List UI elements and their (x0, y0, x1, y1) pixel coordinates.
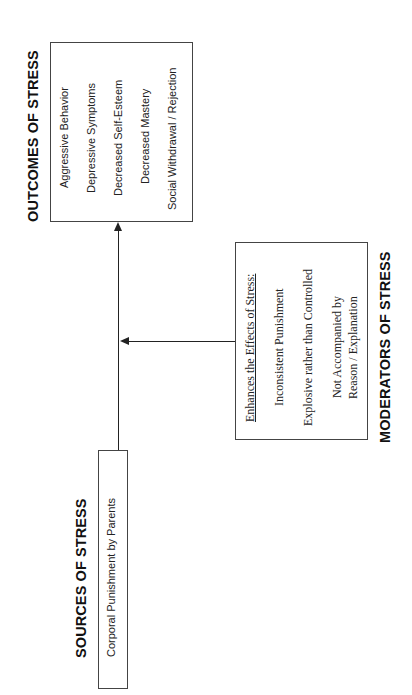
moderator-connector-line (128, 341, 235, 342)
moderator-item: Reason / Explanation (346, 296, 361, 399)
moderator-item: Inconsistent Punishment (272, 288, 287, 406)
outcome-item: Decreased Self-Esteem (112, 80, 124, 196)
sources-title: SOURCES OF STRESS (73, 498, 89, 658)
outcome-item: Depressive Symptoms (85, 83, 97, 193)
outcome-item: Decreased Mastery (139, 89, 151, 184)
outcome-item: Social Withdrawal / Rejection (166, 68, 178, 210)
moderators-heading: Enhances the Effects of Stress: (243, 274, 258, 422)
moderators-title: MODERATORS OF STRESS (377, 251, 393, 443)
outcomes-title: OUTCOMES OF STRESS (25, 50, 41, 222)
source-item: Corporal Punishment by Parents (105, 498, 117, 657)
arrowhead-left-icon (120, 337, 129, 345)
arrowhead-up-icon (114, 222, 122, 231)
moderator-item: Explosive rather than Controlled (301, 269, 316, 426)
outcome-item: Aggressive Behavior (58, 87, 70, 188)
moderator-item: Not Accompanied by (330, 296, 345, 398)
